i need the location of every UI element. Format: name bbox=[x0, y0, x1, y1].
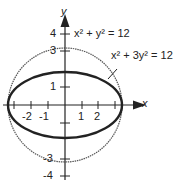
ellipse-label-pointer bbox=[108, 69, 117, 79]
x-tick-label-neg1: -1 bbox=[39, 111, 49, 122]
x-tick-label-2: 2 bbox=[94, 111, 100, 122]
y-tick-label-1: 1 bbox=[50, 81, 56, 92]
y-tick-label-neg4: -4 bbox=[43, 170, 53, 181]
x-tick-label-neg2: -2 bbox=[22, 111, 32, 122]
x-axis-label: x bbox=[142, 98, 148, 109]
ellipse-equation-label: x² + 3y² = 12 bbox=[111, 50, 173, 61]
x-tick-label-1: 1 bbox=[78, 111, 84, 122]
y-tick-label-neg3: -3 bbox=[43, 153, 53, 164]
y-axis-label: y bbox=[61, 6, 67, 17]
y-tick-label-4: 4 bbox=[50, 28, 56, 39]
y-tick-label-3: 3 bbox=[50, 45, 56, 56]
circle-equation-label: x² + y² = 12 bbox=[74, 28, 130, 39]
